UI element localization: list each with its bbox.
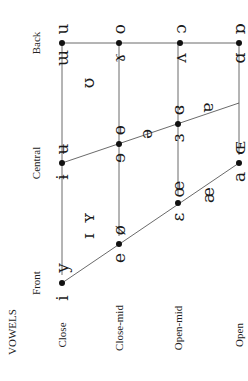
vowel-barred-i: ɨ [52, 174, 72, 180]
vowel-rams-horn: ɤ [109, 53, 129, 63]
column-label-back: Back [30, 31, 42, 54]
row-label-close: Close [56, 322, 68, 347]
vowel-o-slash: ø [109, 225, 129, 235]
vowel-ash: æ [198, 187, 218, 203]
vowel-a: a [229, 172, 248, 182]
vowel-small-capital-y: ʏ [78, 212, 98, 223]
vowel-barred-u: ʉ [52, 143, 72, 154]
column-label-front: Front [30, 271, 42, 295]
dot-close-mid-central [116, 141, 122, 147]
vowel-reversed-open-e: ɜ [168, 133, 188, 142]
vowel-chart: VOWELS Front Central Back Close Close-mi… [0, 0, 248, 381]
vowel-turned-m: ɯ [52, 50, 72, 66]
vowel-u: u [52, 23, 72, 34]
vowel-symbols: i y ɨ ʉ ɯ u e ø ɘ ɵ ɤ o ɛ œ ɜ ɞ ʌ ɔ a ɶ … [52, 23, 248, 300]
vowel-barred-o: ɵ [109, 125, 129, 135]
dot-close-central [59, 160, 65, 166]
vowel-turned-v: ʌ [170, 53, 190, 64]
dot-close-back [59, 40, 65, 46]
chart-title: VOWELS [6, 309, 18, 355]
vowel-e: e [109, 253, 129, 263]
row-label-close-mid: Close-mid [113, 305, 125, 351]
vowel-dots [59, 40, 242, 286]
vowel-o: o [109, 24, 129, 34]
vowel-small-capital-i: ɪ [78, 233, 98, 239]
vowel-open-e: ɛ [168, 212, 188, 221]
dot-close-mid-back [116, 40, 122, 46]
dot-open-mid-back [177, 40, 183, 46]
vowel-upsilon: ʊ [78, 78, 98, 89]
dot-open-back [236, 40, 242, 46]
row-label-open-mid: Open-mid [172, 305, 184, 350]
vowel-closed-reversed-open-e: ɞ [168, 105, 188, 115]
vowel-y: y [52, 263, 72, 274]
vowel-small-capital-oe: ɶ [229, 141, 248, 154]
dot-open-mid-front [175, 200, 181, 206]
vowel-open-o: ɔ [170, 24, 190, 34]
vowel-reversed-e: ɘ [109, 153, 129, 163]
vowel-schwa: ə [136, 129, 156, 139]
vowel-turned-script-a: ɒ [229, 23, 248, 34]
vowel-turned-a: ɐ [197, 103, 217, 113]
vowel-oe: œ [168, 181, 188, 198]
row-label-open: Open [233, 323, 245, 347]
dot-open-mid-central [175, 121, 181, 127]
dot-close-front [59, 280, 65, 286]
column-label-central: Central [30, 147, 42, 179]
dot-close-mid-front [116, 241, 122, 247]
vowel-i: i [52, 295, 72, 301]
dot-open-front [236, 160, 242, 166]
vowel-script-a: ɑ [229, 52, 248, 63]
